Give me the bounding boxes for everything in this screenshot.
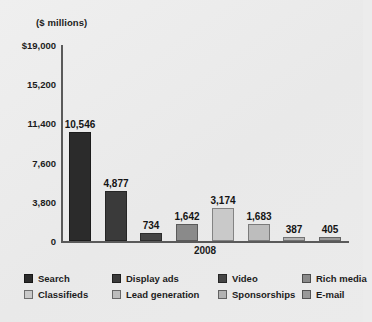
bar-group[interactable]: 1,683 [248, 45, 270, 241]
legend-swatch-icon [218, 290, 227, 299]
y-axis-tick-label: 7,600 [32, 157, 56, 168]
bar-rect[interactable] [140, 233, 162, 241]
plot-area: 10,5464,8777341,6423,1741,683387405 [62, 45, 348, 241]
legend-item[interactable]: Display ads [112, 273, 218, 284]
bar-rect[interactable] [319, 237, 341, 241]
legend-item-label: Rich media [316, 273, 367, 284]
legend-swatch-icon [24, 290, 33, 299]
legend-item-label: Search [38, 273, 70, 284]
legend-swatch-icon [218, 274, 227, 283]
y-axis-tick-label: 15,200 [27, 79, 56, 90]
legend-item[interactable]: Search [24, 273, 112, 284]
bar-value-label: 1,683 [227, 211, 291, 222]
bar-group[interactable]: 10,546 [69, 45, 91, 241]
legend-swatch-icon [302, 290, 311, 299]
bar-value-label: 4,877 [84, 178, 148, 189]
bar-value-label: 1,642 [155, 211, 219, 222]
legend-swatch-icon [112, 274, 121, 283]
legend-swatch-icon [112, 290, 121, 299]
x-axis-category-label: 2008 [62, 245, 348, 256]
bar-value-label: 405 [298, 224, 362, 235]
legend-item-label: Classifieds [38, 289, 88, 300]
y-axis-tick-label: 3,800 [32, 196, 56, 207]
bar-group[interactable]: 1,642 [176, 45, 198, 241]
legend-item-label: Sponsorships [232, 289, 295, 300]
legend-swatch-icon [302, 274, 311, 283]
legend-item-label: Video [232, 273, 258, 284]
bar-value-label: 10,546 [48, 119, 112, 130]
bar-value-label: 734 [119, 220, 183, 231]
legend-item-label: E-mail [316, 289, 345, 300]
bar-rect[interactable] [283, 237, 305, 241]
chart-legend: SearchDisplay adsVideoRich mediaClassifi… [24, 270, 354, 302]
legend-item[interactable]: Lead generation [112, 289, 218, 300]
x-axis-line [61, 241, 349, 243]
legend-item[interactable]: Classifieds [24, 289, 112, 300]
y-axis-tick-label: 0 [51, 236, 56, 247]
bar-value-label: 3,174 [191, 195, 255, 206]
legend-item-label: Lead generation [126, 289, 199, 300]
bar-group[interactable]: 387 [283, 45, 305, 241]
y-axis-tick-label: $19,000 [22, 40, 56, 51]
bar-group[interactable]: 405 [319, 45, 341, 241]
legend-item[interactable]: Rich media [302, 273, 372, 284]
legend-item-label: Display ads [126, 273, 179, 284]
legend-item[interactable]: E-mail [302, 289, 372, 300]
bar-rect[interactable] [176, 224, 198, 241]
legend-item[interactable]: Sponsorships [218, 289, 302, 300]
bar-group[interactable]: 4,877 [105, 45, 127, 241]
legend-swatch-icon [24, 274, 33, 283]
legend-item[interactable]: Video [218, 273, 302, 284]
bar-rect[interactable] [105, 191, 127, 241]
